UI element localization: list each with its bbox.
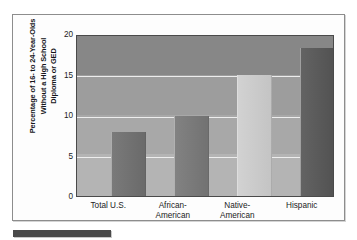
y-tick-label: 20	[53, 31, 73, 39]
y-tick-label: 5	[53, 153, 73, 161]
bar-hispanic	[300, 48, 334, 196]
gridline-15	[77, 76, 333, 77]
plot-area	[76, 35, 334, 197]
y-tick-label: 10	[53, 112, 73, 120]
y-axis-tick-labels: 20 15 10 5 0	[49, 35, 73, 197]
x-tick-label-native-american: Native- American	[205, 200, 270, 226]
bar-total-us	[111, 132, 146, 196]
x-axis-tick-labels: Total U.S. African- American Native- Ame…	[76, 200, 334, 226]
x-tick-label-african-american: African- American	[141, 200, 206, 226]
bar-african-american	[174, 116, 209, 197]
figure-frame: Percentage of 16- to 24-Year-Olds Withou…	[12, 14, 345, 221]
x-tick-label-total-us: Total U.S.	[76, 200, 141, 226]
y-tick-label: 15	[53, 72, 73, 80]
caption-rule	[13, 230, 111, 237]
bar-native-american	[237, 75, 272, 196]
x-tick-label-hispanic: Hispanic	[270, 200, 335, 226]
y-tick-label: 0	[53, 193, 73, 201]
